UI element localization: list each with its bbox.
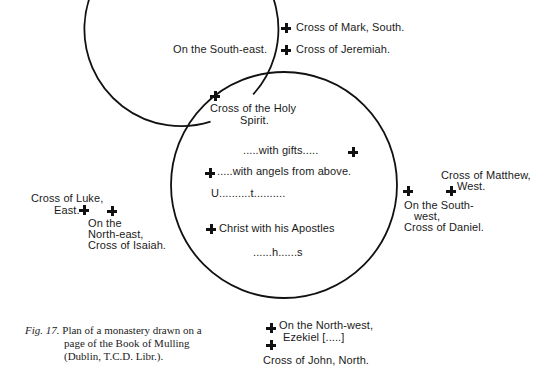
caption-fig-label: Fig (25, 324, 40, 336)
label-north-west-line2: Ezekiel [.....] (283, 331, 344, 344)
cross-icon-christ (206, 224, 216, 234)
cross-icon-with-angels (205, 168, 215, 178)
caption-text-line1: Plan of a monastery drawn on a (62, 324, 201, 336)
label-matthew-line2: West. (457, 180, 485, 193)
label-luke-line2: East. (54, 204, 80, 217)
cross-icon-with-gifts (348, 147, 358, 157)
figure-caption-line2: page of the Book of Mulling (64, 337, 190, 350)
label-cross-of-isaiah: Cross of Isaiah. (88, 239, 166, 252)
label-cross-of-jeremiah: Cross of Jeremiah. (296, 43, 390, 56)
label-matthew-line1: Cross of Matthew, (441, 169, 531, 182)
cross-icon-john (266, 340, 276, 350)
cross-icon-mark (281, 23, 291, 33)
label-with-gifts: .....with gifts..... (243, 144, 318, 157)
label-cross-of-mark: Cross of Mark, South. (296, 21, 404, 34)
cross-icon-holy-spirit (210, 91, 220, 101)
cross-icon-south-west (403, 186, 413, 196)
label-cross-of-john: Cross of John, North. (263, 354, 369, 367)
figure-caption-line1: Fig. 17. Plan of a monastery drawn on a (25, 324, 202, 337)
cross-icon-jeremiah (281, 45, 291, 55)
cross-icon-north-west (266, 323, 276, 333)
cross-icon-isaiah (107, 206, 117, 216)
cross-icon-matthew (446, 186, 456, 196)
figure-caption-line3: (Dublin, T.C.D. Libr.). (64, 350, 163, 363)
label-with-angels: .....with angels from above. (217, 165, 351, 178)
label-south-east: On the South-east. (173, 43, 267, 56)
label-cross-of-daniel: Cross of Daniel. (404, 221, 484, 234)
label-holy-spirit-line2: Spirit. (240, 114, 269, 127)
cross-icon-luke (79, 205, 89, 215)
caption-fig-number: . 17. (40, 324, 59, 336)
label-h-s: ......h......s (253, 246, 303, 259)
label-u-t: U..........t.......... (211, 187, 285, 200)
monastery-plan-diagram: Cross of Mark, South. On the South-east.… (0, 0, 557, 374)
label-christ-with-apostles: Christ with his Apostles (219, 222, 335, 235)
